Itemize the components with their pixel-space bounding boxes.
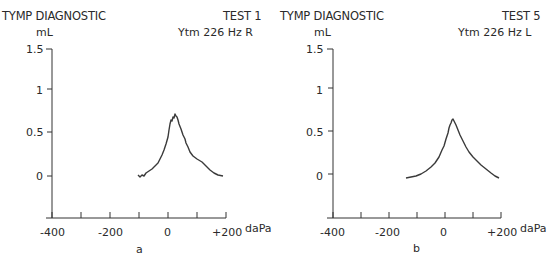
tympanogram-panel-b: TYMP DIAGNOSTIC TEST 5 mL Ytm 226 Hz L 1… — [276, 0, 553, 265]
axes — [46, 49, 226, 218]
axes — [327, 49, 501, 218]
tympanogram-panel-a: TYMP DIAGNOSTIC TEST 1 mL Ytm 226 Hz R 1… — [0, 0, 276, 265]
plot-area — [276, 0, 553, 265]
plot-area — [0, 0, 276, 265]
tympanogram-curve-left — [406, 119, 499, 178]
tympanogram-curve-right — [138, 114, 223, 177]
